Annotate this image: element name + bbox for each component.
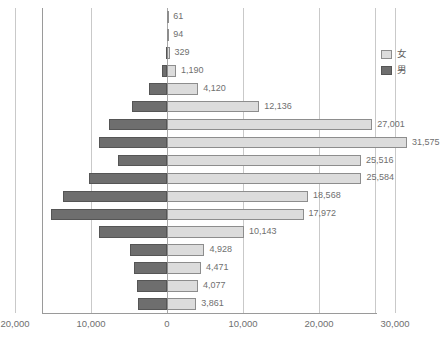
bar-male	[134, 262, 167, 274]
chart-row: 35～3925,584	[0, 169, 422, 187]
bar-male	[137, 280, 167, 292]
data-label: 329	[171, 44, 190, 62]
data-label: 25,584	[362, 169, 394, 187]
bar-female	[167, 298, 196, 310]
x-tick-label: 10,000	[228, 318, 257, 329]
legend-swatch-female-icon	[381, 50, 392, 59]
legend-item-female: 女	[381, 46, 407, 62]
bar-female	[167, 47, 170, 59]
chart-row: 15～194,928	[0, 241, 422, 259]
legend-label-female: 女	[397, 49, 407, 59]
bar-male	[99, 137, 167, 149]
chart-row: 70～74329	[0, 44, 422, 62]
chart-row: 65～691,190	[0, 62, 422, 80]
data-label: 3,861	[197, 295, 224, 313]
chart-row: 10～144,471	[0, 259, 422, 277]
data-label: 4,471	[202, 259, 229, 277]
data-label: 18,568	[309, 187, 341, 205]
bar-female	[167, 83, 198, 95]
bar-female	[167, 119, 372, 131]
bar-female	[167, 155, 361, 167]
bar-female	[167, 137, 407, 149]
chart-row: 45～4931,575	[0, 134, 422, 152]
bar-male	[130, 244, 167, 256]
x-axis-line	[42, 313, 377, 314]
chart-row: 50～5427,001	[0, 116, 422, 134]
bar-male	[89, 173, 167, 185]
bar-female	[167, 226, 244, 238]
data-label: 27,001	[373, 116, 405, 134]
bar-female	[167, 280, 198, 292]
data-label: 31,575	[408, 134, 440, 152]
bar-female	[167, 244, 204, 256]
x-tick-label: 20,000	[0, 318, 29, 329]
chart-row: 25～2917,972	[0, 205, 422, 223]
bar-female	[167, 65, 176, 77]
x-tick-label: 20,000	[304, 318, 333, 329]
chart-row: 5～94,077	[0, 277, 422, 295]
bar-male	[109, 119, 167, 131]
bar-female	[167, 191, 308, 203]
chart-legend: 女 男	[381, 46, 407, 78]
x-tick-label: 10,000	[76, 318, 105, 329]
bar-female	[167, 173, 361, 185]
legend-swatch-male-icon	[381, 66, 392, 75]
x-tick-label: 0	[164, 318, 169, 329]
data-label: 4,928	[205, 241, 232, 259]
chart-row: 60～644,120	[0, 80, 422, 98]
data-label: 1,190	[177, 62, 204, 80]
data-label: 10,143	[245, 223, 277, 241]
bar-male	[51, 209, 167, 221]
bar-male	[149, 83, 167, 95]
data-label: 61	[169, 8, 183, 26]
data-label: 12,136	[260, 98, 292, 116]
bar-female	[167, 209, 304, 221]
bar-female	[167, 101, 259, 113]
bar-male	[63, 191, 167, 203]
data-label: 17,972	[305, 205, 337, 223]
legend-item-male: 男	[381, 62, 407, 78]
x-tick-label: 30,000	[380, 318, 409, 329]
bar-male	[132, 101, 167, 113]
bar-female	[167, 262, 201, 274]
legend-label-male: 男	[397, 65, 407, 75]
chart-row: 20～2410,143	[0, 223, 422, 241]
data-label: 4,077	[199, 277, 226, 295]
bar-male	[118, 155, 167, 167]
chart-row: 30～3418,568	[0, 187, 422, 205]
chart-row: 80～61	[0, 8, 422, 26]
chart-row: 40～4425,516	[0, 152, 422, 170]
data-label: 94	[169, 26, 183, 44]
chart-row: 0～43,861	[0, 295, 422, 313]
bar-male	[99, 226, 167, 238]
chart-row: 75～7994	[0, 26, 422, 44]
bar-male	[138, 298, 167, 310]
chart-row: 55～5912,136	[0, 98, 422, 116]
data-label: 4,120	[199, 80, 226, 98]
data-label: 25,516	[362, 152, 394, 170]
